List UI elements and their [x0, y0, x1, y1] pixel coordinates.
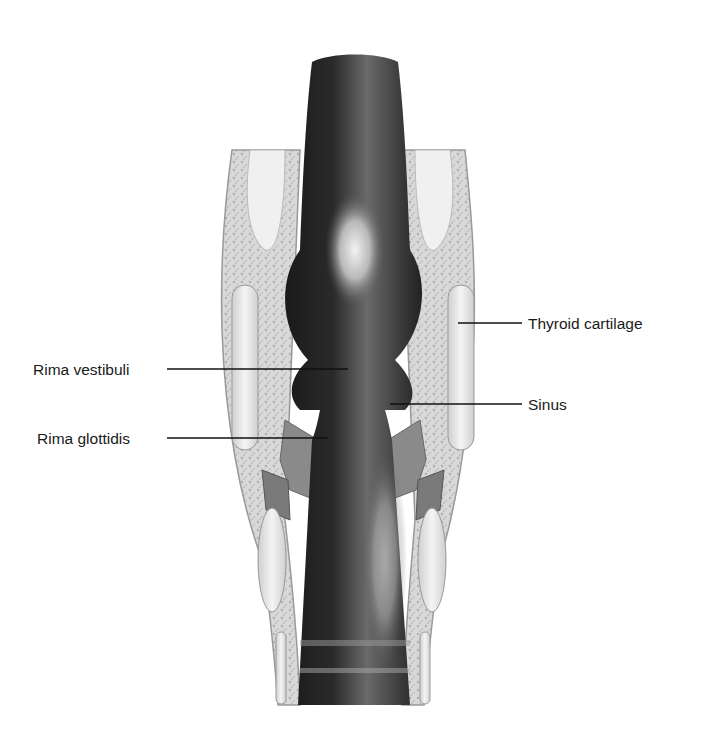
label-thyroid-cartilage: Thyroid cartilage	[528, 316, 643, 332]
label-sinus: Sinus	[528, 397, 567, 413]
label-rima-glottidis: Rima glottidis	[37, 431, 130, 447]
label-rima-vestibuli: Rima vestibuli	[33, 362, 129, 378]
